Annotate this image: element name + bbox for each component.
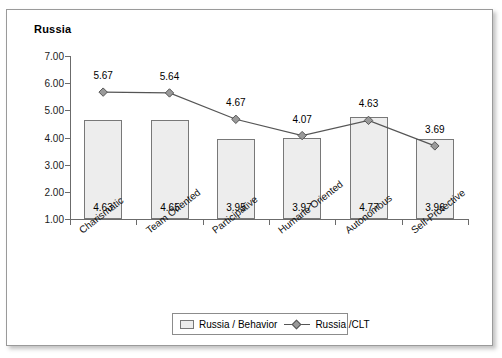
legend-label-russia-behavior: Russia / Behavior (199, 319, 277, 330)
x-axis-tick-mark (335, 220, 336, 225)
y-axis-tick-mark (65, 138, 70, 139)
y-axis-line (70, 56, 71, 220)
chart-figure-frame: Russia 1.002.003.004.005.006.007.00 4.63… (6, 9, 493, 346)
line-marker-diamond (165, 89, 173, 97)
line-value-label: 4.67 (206, 97, 266, 108)
x-axis-tick-mark (269, 220, 270, 225)
y-axis-tick-label: 5.00 (30, 105, 64, 116)
y-axis-tick-mark (65, 192, 70, 193)
x-axis-tick-mark (402, 220, 403, 225)
y-axis-tick-mark (65, 56, 70, 57)
y-axis-tick-label: 4.00 (30, 132, 64, 143)
line-value-label: 4.07 (272, 114, 332, 125)
y-axis-tick-mark (65, 110, 70, 111)
y-axis-tick-mark (65, 83, 70, 84)
legend-item-russia-behavior: Russia / Behavior (180, 319, 277, 330)
x-axis-tick-mark (203, 220, 204, 225)
legend-label-russia-clt: Russia /CLT (315, 319, 369, 330)
line-value-label: 5.64 (140, 71, 200, 82)
y-axis-tick-label: 3.00 (30, 159, 64, 170)
legend-line-diamond-marker-icon (284, 320, 310, 329)
line-value-label: 4.63 (339, 98, 399, 109)
y-axis-tick-label: 1.00 (30, 214, 64, 225)
legend-square-swatch-icon (180, 320, 194, 329)
legend-item-russia-clt: Russia /CLT (284, 319, 369, 330)
line-marker-diamond (99, 88, 107, 96)
x-axis-tick-mark (468, 220, 469, 225)
line-value-label: 5.67 (73, 70, 133, 81)
y-axis-tick-mark (65, 165, 70, 166)
line-marker-diamond (232, 115, 240, 123)
x-axis-tick-mark (70, 220, 71, 225)
y-axis-tick-label: 7.00 (30, 51, 64, 62)
chart-legend: Russia / Behavior Russia /CLT (172, 313, 348, 335)
x-axis-tick-mark (136, 220, 137, 225)
y-axis-tick-label: 6.00 (30, 78, 64, 89)
y-axis-tick-labels: 1.002.003.004.005.006.007.00 (30, 10, 64, 358)
y-axis-tick-label: 2.00 (30, 186, 64, 197)
line-value-label: 3.69 (405, 124, 465, 135)
